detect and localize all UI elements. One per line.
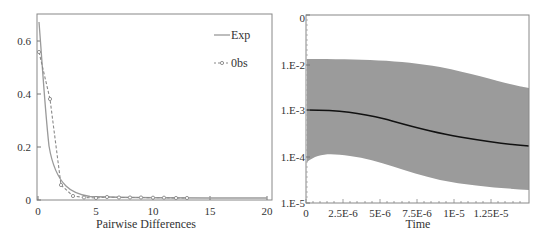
- left-y-axis: [37, 41, 41, 200]
- confidence-band: [307, 59, 529, 190]
- obs-series-line: [39, 52, 187, 198]
- left-x-tick-15: 15: [205, 205, 217, 217]
- right-x-tick-2.5e-6: 2.5E-6: [328, 207, 358, 219]
- right-y-tick-1e-4: 1.E-4: [281, 151, 306, 163]
- left-y-tick-0: 0: [26, 194, 32, 206]
- right-x-tick-1.25e-5: 1.25E-5: [473, 207, 509, 219]
- left-x-tick-5: 5: [93, 205, 99, 217]
- left-x-tick-10: 10: [148, 205, 160, 217]
- left-x-axis-title: Pairwise Differences: [96, 217, 196, 231]
- left-x-tick-20: 20: [262, 205, 274, 217]
- mismatch-distribution-chart: 0 0.2 0.4 0.6 0 5 10 15 20 Pairwise Diff…: [17, 14, 273, 231]
- legend-obs-label: 0bs: [231, 56, 248, 70]
- skyline-plot-chart: 0 1.E-2 1.E-3 1.E-4 1.E-5 0 2.5E-6: [281, 12, 529, 231]
- right-x-tick-1e-5: 1E-5: [443, 207, 465, 219]
- right-x-axis-title: Time: [406, 217, 431, 231]
- left-x-tick-0: 0: [35, 205, 41, 217]
- left-y-tick-0.2: 0.2: [17, 141, 31, 153]
- exp-series-line: [39, 22, 267, 198]
- right-y-tick-1e-3: 1.E-3: [281, 104, 306, 116]
- left-legend: Exp 0bs: [214, 28, 250, 70]
- right-y-tick-1: 0: [300, 12, 306, 24]
- right-x-tick-5e-6: 5E-6: [369, 207, 391, 219]
- left-y-tick-0.4: 0.4: [17, 88, 31, 100]
- right-x-axis: [306, 199, 520, 203]
- left-y-tick-0.6: 0.6: [17, 35, 31, 47]
- legend-obs-marker-icon: [220, 61, 223, 64]
- figure: 0 0.2 0.4 0.6 0 5 10 15 20 Pairwise Diff…: [0, 0, 542, 241]
- right-y-tick-1e-2: 1.E-2: [281, 59, 305, 71]
- right-x-tick-0: 0: [303, 207, 309, 219]
- right-y-tick-1e-5: 1.E-5: [281, 197, 306, 209]
- legend-exp-label: Exp: [231, 28, 250, 42]
